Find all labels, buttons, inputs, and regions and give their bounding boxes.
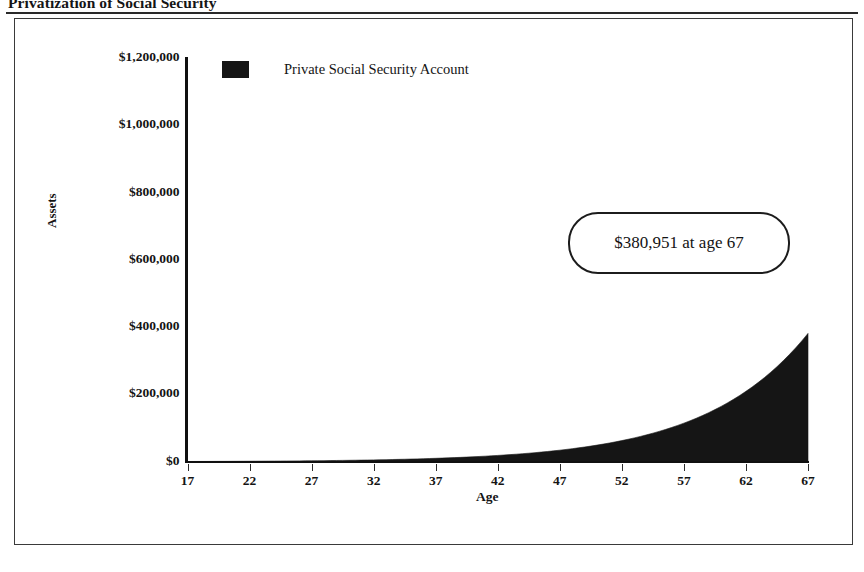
x-axis-tick-label: 67 [788, 473, 828, 489]
y-axis-tick-label: $1,200,000 [70, 49, 180, 65]
y-axis-tick-label: $0 [70, 453, 180, 469]
x-axis-tick-label: 27 [292, 473, 332, 489]
y-axis-tick-label: $200,000 [70, 385, 180, 401]
x-axis-tick-label: 22 [230, 473, 270, 489]
title-divider [6, 12, 858, 14]
x-axis-tick-mark [312, 464, 313, 471]
x-axis-tick-label: 62 [726, 473, 766, 489]
x-axis-tick-label: 52 [602, 473, 642, 489]
x-axis-tick-mark [188, 464, 189, 471]
x-axis-tick-mark [808, 464, 809, 471]
x-axis-tick-mark [684, 464, 685, 471]
chart-page: Privatization of Social Security $0$200,… [0, 0, 864, 572]
annotation-text: $380,951 at age 67 [614, 233, 743, 253]
legend-item-label: Private Social Security Account [284, 61, 469, 78]
callout-annotation: $380,951 at age 67 [568, 212, 790, 274]
y-axis-tick-label: $800,000 [70, 184, 180, 200]
x-axis-title: Age [476, 489, 499, 505]
page-title: Privatization of Social Security [8, 0, 217, 12]
x-axis-tick-mark [746, 464, 747, 471]
x-axis-tick-mark [374, 464, 375, 471]
x-axis-tick-mark [436, 464, 437, 471]
x-axis-tick-mark [560, 464, 561, 471]
chart-legend: Private Social Security Account [222, 61, 469, 78]
x-axis-tick-mark [250, 464, 251, 471]
y-axis-tick-label: $400,000 [70, 318, 180, 334]
x-axis-tick-mark [622, 464, 623, 471]
x-axis-tick-label: 32 [354, 473, 394, 489]
x-axis-tick-label: 47 [540, 473, 580, 489]
x-axis-tick-label: 17 [168, 473, 208, 489]
y-axis-tick-label: $600,000 [70, 251, 180, 267]
legend-swatch-icon [222, 61, 249, 78]
x-axis-tick-label: 57 [664, 473, 704, 489]
y-axis-line [185, 57, 188, 463]
y-axis-title: Assets [44, 193, 60, 228]
y-axis-tick-label: $1,000,000 [70, 116, 180, 132]
x-axis-tick-label: 37 [416, 473, 456, 489]
x-axis-tick-mark [498, 464, 499, 471]
x-axis-tick-label: 42 [478, 473, 518, 489]
